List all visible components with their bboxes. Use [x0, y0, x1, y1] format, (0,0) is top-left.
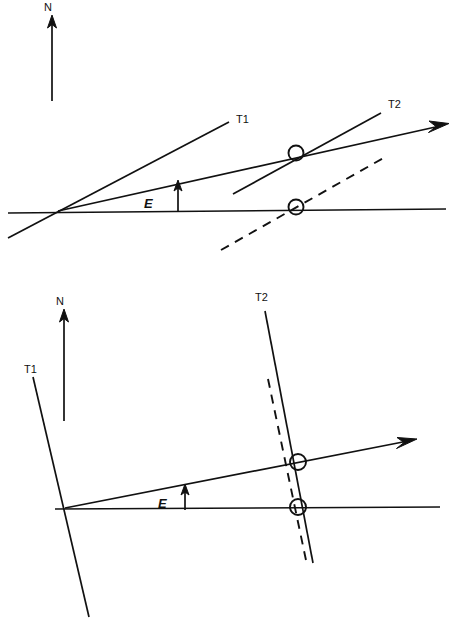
intersection-marker-lower-bottom: [290, 499, 306, 515]
upper-panel: N T1 T2: [8, 1, 449, 250]
track-line-t1-lower: T1: [24, 363, 89, 617]
track-line-t2-upper: T2: [233, 98, 401, 194]
horizon-line-lower: [55, 507, 440, 509]
track-line-t2-lower: T2: [255, 291, 313, 563]
track-line-t1-upper: T1: [8, 113, 249, 238]
pointing-vector-shaft-lower: [65, 441, 408, 508]
elevation-angle-upper: E: [144, 180, 182, 212]
figure-root: N T1 T2: [0, 0, 450, 621]
north-arrow-lower: N: [56, 295, 68, 421]
t2-line-upper: [233, 113, 381, 194]
horizon-line-upper: [8, 209, 446, 213]
north-label-lower: N: [56, 295, 64, 307]
t2-line-lower: [265, 311, 313, 563]
t1-line-lower: [33, 377, 89, 617]
pointing-vector-shaft-upper: [58, 126, 440, 211]
north-arrow-upper: N: [44, 1, 56, 101]
t2-label-lower: T2: [255, 291, 268, 303]
elevation-label-lower: E: [158, 496, 167, 511]
t1-label-lower: T1: [24, 363, 37, 375]
dashed-projection-upper: [221, 156, 387, 250]
t1-label-upper: T1: [236, 113, 249, 125]
pointing-vector-head-upper: [429, 121, 450, 133]
lower-panel: N T1 T2: [24, 291, 440, 617]
dashed-projection-lower: [268, 379, 307, 565]
t2-label-upper: T2: [388, 98, 401, 110]
technical-diagram: N T1 T2: [0, 0, 450, 621]
elevation-label-upper: E: [144, 196, 153, 211]
elevation-angle-lower: E: [158, 484, 189, 511]
pointing-vector-lower: [65, 438, 417, 509]
pointing-vector-upper: [58, 121, 449, 211]
north-label-upper: N: [44, 1, 52, 13]
